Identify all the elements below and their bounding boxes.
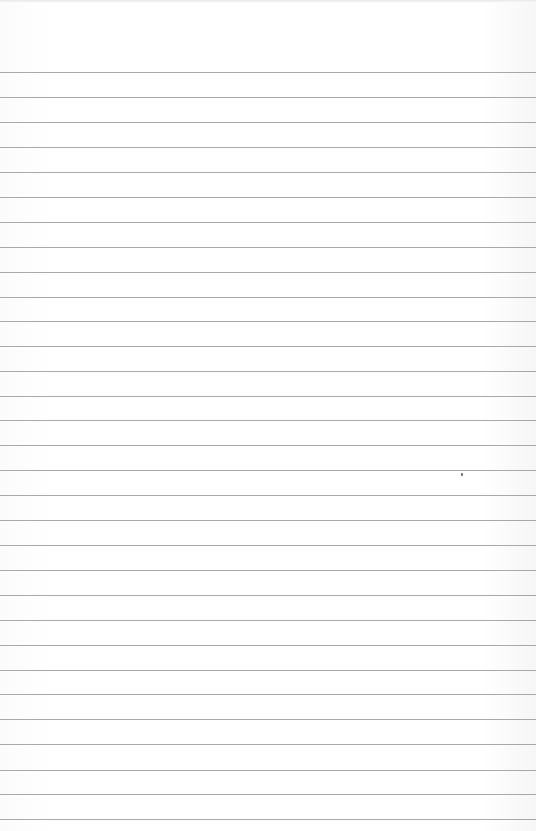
ruled-line [0, 570, 536, 571]
ruled-line [0, 694, 536, 695]
ruled-line [0, 744, 536, 745]
ruled-line [0, 470, 536, 471]
ruled-line [0, 72, 536, 73]
ruled-line [0, 272, 536, 273]
ruled-line [0, 297, 536, 298]
ruled-line [0, 346, 536, 347]
ruled-line [0, 794, 536, 795]
ruled-line [0, 819, 536, 820]
ruled-line [0, 645, 536, 646]
ruled-line [0, 122, 536, 123]
ruled-line [0, 495, 536, 496]
ruled-line [0, 222, 536, 223]
ruled-line [0, 197, 536, 198]
ruled-line [0, 620, 536, 621]
ruled-line [0, 770, 536, 771]
ruled-line [0, 396, 536, 397]
ruled-line [0, 595, 536, 596]
ruled-line [0, 97, 536, 98]
ink-speck [461, 473, 463, 476]
ruled-line [0, 719, 536, 720]
ruled-line [0, 371, 536, 372]
ruled-line [0, 147, 536, 148]
ruled-line [0, 670, 536, 671]
ruled-line [0, 321, 536, 322]
ruled-line [0, 445, 536, 446]
lined-paper-sheet [0, 0, 536, 831]
paper-top-edge [0, 0, 536, 3]
ruled-line [0, 247, 536, 248]
ruled-line [0, 545, 536, 546]
ruled-line [0, 172, 536, 173]
ruled-line [0, 520, 536, 521]
ruled-line [0, 420, 536, 421]
